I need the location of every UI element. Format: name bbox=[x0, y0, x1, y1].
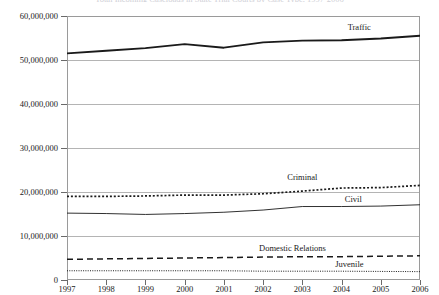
series-lines bbox=[67, 16, 420, 280]
x-tick-label: 2004 bbox=[333, 285, 350, 294]
series-line-criminal bbox=[67, 185, 420, 196]
y-tick-label: 50,000,000 bbox=[20, 56, 58, 65]
series-line-civil bbox=[67, 205, 420, 215]
x-tick-label: 2001 bbox=[215, 285, 232, 294]
series-label-civil: Civil bbox=[343, 195, 364, 204]
x-tick-label: 2006 bbox=[412, 285, 429, 294]
series-label-juvenile: Juvenile bbox=[333, 259, 365, 268]
y-tick-label: 30,000,000 bbox=[20, 144, 58, 153]
series-line-juvenile bbox=[67, 271, 420, 272]
y-tick-label: 60,000,000 bbox=[20, 12, 58, 21]
x-tick-label: 2003 bbox=[294, 285, 311, 294]
series-label-domestic-relations: Domestic Relations bbox=[257, 244, 328, 253]
x-tick-label: 1999 bbox=[137, 285, 154, 294]
y-tick-label: 40,000,000 bbox=[20, 100, 58, 109]
x-tick-label: 2002 bbox=[255, 285, 272, 294]
series-label-criminal: Criminal bbox=[285, 173, 319, 182]
x-tick-label: 2005 bbox=[372, 285, 389, 294]
series-line-traffic bbox=[67, 36, 420, 54]
y-axis: 010,000,00020,000,00030,000,00040,000,00… bbox=[0, 0, 67, 295]
y-tick-label: 20,000,000 bbox=[20, 188, 58, 197]
chart-container: Total Incoming Caseloads in State Trial … bbox=[0, 0, 439, 295]
y-tick-label: 10,000,000 bbox=[20, 232, 58, 241]
x-tick-label: 1997 bbox=[59, 285, 76, 294]
series-line-domestic-relations bbox=[67, 256, 420, 260]
x-tick-label: 1998 bbox=[98, 285, 115, 294]
series-label-traffic: Traffic bbox=[346, 23, 373, 32]
x-tick-label: 2000 bbox=[176, 285, 193, 294]
y-tick-label: 0 bbox=[54, 276, 58, 285]
